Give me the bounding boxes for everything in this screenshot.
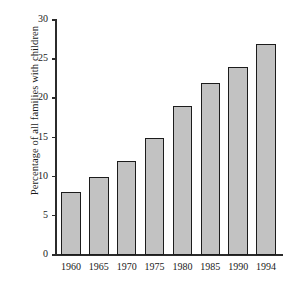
- bar-1960: [61, 192, 81, 255]
- x-tick-label: 1970: [113, 261, 141, 272]
- bar-slot: [228, 20, 248, 255]
- bar-slot: [117, 20, 137, 255]
- y-tick-label: 15: [38, 131, 48, 142]
- bar-slot: [61, 20, 81, 255]
- bar-1994: [256, 44, 276, 256]
- y-tick-label: 30: [38, 13, 48, 24]
- bar-1990: [228, 67, 248, 255]
- x-tick-label: 1980: [169, 261, 197, 272]
- y-tick-label: 10: [38, 170, 48, 181]
- x-tick-label: 1990: [224, 261, 252, 272]
- bar-chart: Percentage of all families with children…: [0, 0, 287, 281]
- y-tick-label: 5: [43, 209, 48, 220]
- x-tick-label: 1985: [196, 261, 224, 272]
- y-tick-label: 20: [38, 91, 48, 102]
- x-tick-label: 1965: [85, 261, 113, 272]
- bar-1970: [117, 161, 137, 255]
- x-tick-label: 1960: [57, 261, 85, 272]
- bar-slot: [256, 20, 276, 255]
- plot-area: [57, 20, 280, 255]
- y-tick-label: 25: [38, 52, 48, 63]
- bar-1980: [173, 106, 193, 255]
- bar-slot: [89, 20, 109, 255]
- bar-1965: [89, 177, 109, 255]
- bar-slot: [173, 20, 193, 255]
- x-tick-label: 1994: [252, 261, 280, 272]
- x-tick-label: 1975: [141, 261, 169, 272]
- bar-slot: [201, 20, 221, 255]
- bar-1985: [201, 83, 221, 255]
- y-tick-label: 0: [43, 248, 48, 259]
- bar-slot: [145, 20, 165, 255]
- bar-1975: [145, 138, 165, 256]
